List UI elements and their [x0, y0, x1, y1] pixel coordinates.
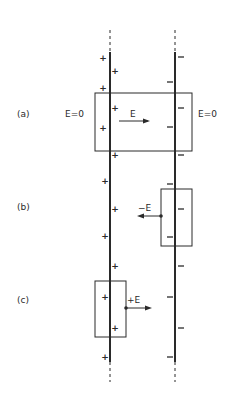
plus-charge-icon: + [99, 83, 107, 93]
plus-charge-icon: + [111, 204, 119, 214]
plus-charge-icon: + [111, 66, 119, 76]
field-left-label: E=0 [65, 109, 84, 119]
panel-a: (a) E=0 E E=0 [17, 93, 217, 151]
plus-charge-icon: + [99, 53, 107, 63]
field-right-label: E=0 [198, 109, 217, 119]
gaussian-surface-b [161, 189, 192, 246]
field-inside-label: E [130, 109, 136, 119]
field-label-c: +E [127, 295, 141, 305]
plus-charge-icon: + [111, 103, 119, 113]
plus-charge-icon: + [99, 123, 107, 133]
arrowhead-icon [145, 306, 152, 311]
plus-charge-icon: + [101, 292, 109, 302]
arrowhead-icon [137, 214, 144, 219]
plus-charge-icon: + [101, 352, 109, 362]
plus-charge-icon: + [111, 323, 119, 333]
panel-a-label: (a) [17, 109, 30, 119]
panel-b-label: (b) [17, 202, 30, 212]
plus-charge-icon: + [101, 231, 109, 241]
capacitor-field-diagram: +++++++++++++ (a) E=0 E E=0 (b) −E (c) +… [0, 0, 235, 398]
plus-charge-icon: + [111, 261, 119, 271]
arrowhead-icon [143, 119, 150, 124]
panel-c: (c) +E [17, 281, 152, 337]
field-label-b: −E [138, 203, 152, 213]
panel-c-label: (c) [17, 295, 29, 305]
plus-charge-icon: + [101, 176, 109, 186]
